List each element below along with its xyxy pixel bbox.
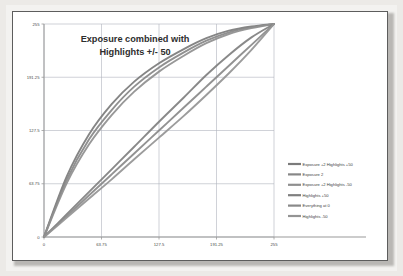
legend-label: Exposure +2 Highlights -50 [303, 182, 353, 187]
chart-title-line-1: Exposure combined with [81, 34, 190, 44]
legend-item[interactable]: Highlights -50 [288, 214, 328, 219]
legend-item[interactable]: Everything at 0 [288, 203, 331, 208]
legend-label: Highlights -50 [303, 214, 329, 219]
legend-item[interactable]: Exposure +2 Highlights -50 [288, 182, 352, 187]
legend-label: Exposure 2 [303, 172, 324, 177]
chart-container: 063.75127.5191.25255063.75127.5191.25255… [13, 12, 389, 262]
x-axis-tick-label: 63.75 [96, 242, 107, 247]
chart-legend: Exposure +2 Highlights +50Exposure 2Expo… [288, 162, 354, 219]
legend-item[interactable]: Exposure 2 [288, 172, 324, 177]
legend-item[interactable]: Exposure +2 Highlights +50 [288, 162, 354, 167]
x-axis-tick-label: 255 [271, 242, 279, 247]
legend-item[interactable]: Highlights +50 [288, 193, 329, 198]
x-axis-tick-label: 191.25 [210, 242, 223, 247]
y-axis-tick-label: 0 [37, 235, 40, 240]
tone-curve-chart: 063.75127.5191.25255063.75127.5191.25255… [13, 12, 389, 262]
y-axis-tick-label: 63.75 [29, 181, 40, 186]
chart-title-line-2: Highlights +/- 50 [99, 47, 170, 57]
y-axis-tick-label: 191.25 [27, 75, 40, 80]
y-axis-tick-label: 255 [33, 22, 41, 27]
legend-label: Everything at 0 [303, 203, 331, 208]
screenshot-root: 063.75127.5191.25255063.75127.5191.25255… [0, 0, 403, 276]
legend-label: Highlights +50 [303, 193, 330, 198]
chart-frame: 063.75127.5191.25255063.75127.5191.25255… [12, 11, 388, 261]
legend-label: Exposure +2 Highlights +50 [303, 162, 354, 167]
x-axis-tick-label: 127.5 [154, 242, 165, 247]
x-axis-tick-label: 0 [43, 242, 46, 247]
y-axis-tick-label: 127.5 [29, 128, 40, 133]
